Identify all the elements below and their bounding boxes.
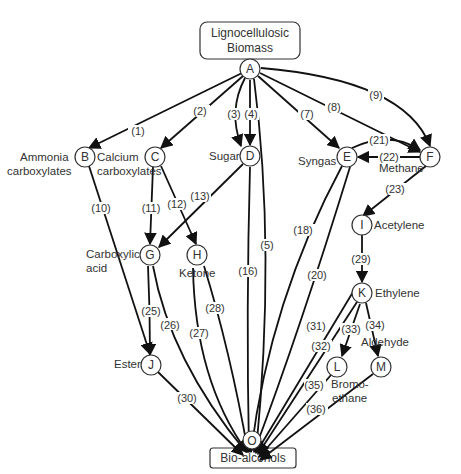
svg-text:L: L [334, 360, 341, 374]
node-J: J [141, 355, 161, 375]
label-calcium: Calcium [97, 151, 139, 163]
label-sugar: Sugar [209, 150, 240, 162]
edge-label-9: (9) [369, 89, 382, 101]
node-I: I [352, 215, 372, 235]
svg-text:M: M [376, 360, 386, 374]
edge-label-5: (5) [260, 239, 273, 251]
edge-label-13: (13) [190, 190, 210, 202]
edge-9 [261, 68, 430, 146]
label-bromo: Bromo- [331, 378, 369, 390]
edge-label-20: (20) [307, 269, 327, 281]
node-K: K [352, 283, 372, 303]
node-M: M [371, 357, 391, 377]
node-L: L [327, 357, 347, 377]
edge-label-4: (4) [244, 108, 257, 120]
label-acid: acid [86, 262, 107, 274]
edge-label-8: (8) [327, 101, 340, 113]
svg-text:D: D [246, 149, 255, 163]
pathway-diagram: Lignocellulosic Biomass Bio-alcohols [0, 0, 461, 474]
label-methane: Methane [379, 162, 424, 174]
edge-label-35: (35) [304, 379, 324, 391]
edge-label-2: (2) [193, 105, 206, 117]
edge-label-11: (11) [142, 202, 161, 214]
edge-label-7: (7) [300, 108, 313, 120]
source-box-line2: Biomass [227, 41, 273, 55]
svg-text:H: H [193, 248, 202, 262]
edge-label-23: (23) [385, 183, 405, 195]
node-O: O [243, 431, 261, 449]
label-carboxylates-c: carboxylates [97, 165, 162, 177]
node-E: E [337, 147, 357, 167]
edge-label-25: (25) [141, 305, 161, 317]
edge-label-10: (10) [91, 202, 111, 214]
edge-30 [158, 372, 243, 455]
edge-label-30: (30) [177, 392, 197, 404]
svg-text:J: J [148, 358, 154, 372]
edge-label-31: (31) [306, 320, 326, 332]
node-H: H [187, 245, 207, 265]
label-syngas: Syngas [298, 155, 337, 167]
edge-label-32: (32) [311, 340, 331, 352]
edge-26 [153, 266, 246, 452]
svg-text:O: O [247, 434, 256, 448]
edge-label-12: (12) [167, 198, 187, 210]
node-D: D [240, 146, 260, 166]
svg-text:E: E [343, 150, 351, 164]
edge-label-1: (1) [131, 125, 144, 137]
label-acetylene: Acetylene [374, 219, 425, 231]
label-ammonia: Ammonia [20, 151, 69, 163]
svg-text:C: C [151, 150, 160, 164]
edge-label-27: (27) [189, 327, 209, 339]
edge-label-28: (28) [205, 302, 225, 314]
label-carboxylates-b: carboxylates [7, 165, 72, 177]
svg-text:I: I [360, 218, 363, 232]
svg-text:K: K [358, 286, 366, 300]
source-box-line1: Lignocellulosic [211, 26, 289, 40]
edge-label-33: (33) [341, 323, 361, 335]
edge-label-3: (3) [227, 108, 240, 120]
svg-text:F: F [426, 150, 433, 164]
node-C: C [145, 147, 165, 167]
label-ethylene: Ethylene [375, 287, 420, 299]
node-A: A [240, 59, 260, 79]
label-aldehyde: Aldehyde [361, 336, 409, 348]
edge-27 [193, 268, 247, 452]
svg-text:G: G [145, 248, 154, 262]
node-B: B [75, 147, 95, 167]
edge-label-29: (29) [351, 253, 371, 265]
target-box-label: Bio-alcohols [220, 451, 285, 465]
edge-label-26: (26) [160, 319, 180, 331]
nodes: A B Ammonia carboxylates C Calcium carbo… [7, 59, 440, 449]
label-carboxylic: Carboxylic [86, 248, 140, 260]
svg-text:B: B [81, 150, 89, 164]
edge-label-21: (21) [369, 134, 389, 146]
label-ester: Ester [114, 358, 141, 370]
edge-label-34: (34) [365, 319, 385, 331]
source-box-lignocellulosic-biomass: Lignocellulosic Biomass [200, 22, 300, 59]
svg-text:A: A [246, 62, 254, 76]
edge-1 [89, 73, 242, 148]
node-G: G [140, 245, 160, 265]
edge-label-36: (36) [306, 403, 326, 415]
target-box-bio-alcohols: Bio-alcohols [210, 448, 296, 468]
label-ethane: ethane [332, 392, 367, 404]
edge-label-16: (16) [238, 265, 258, 277]
label-ketone: Ketone [179, 267, 215, 279]
edge-16 [248, 167, 250, 452]
edge-label-18: (18) [293, 224, 313, 236]
